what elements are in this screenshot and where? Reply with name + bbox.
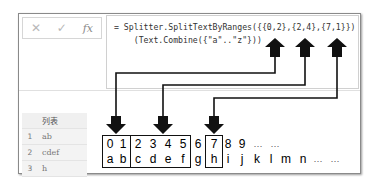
letter-cell: a: [103, 152, 117, 167]
index-ellipsis: …: [268, 137, 282, 152]
letter-cell: l: [264, 152, 278, 167]
up-arrow-icon: [295, 38, 315, 57]
index-cell: 5: [176, 137, 190, 152]
letter-cell: n: [296, 152, 310, 167]
letter-cell: m: [279, 152, 293, 167]
letter-cell: c: [131, 152, 145, 167]
index-cell: 8: [221, 137, 235, 152]
index-cell: 9: [235, 137, 249, 152]
down-arrow-icon: [153, 116, 173, 134]
letter-cell: f: [176, 152, 190, 167]
index-cell: 4: [161, 137, 175, 152]
index-cell: 6: [191, 137, 205, 152]
letter-ellipsis: …: [311, 152, 325, 167]
letter-cell: k: [250, 152, 264, 167]
index-cell: 3: [146, 137, 160, 152]
letter-cell: e: [161, 152, 175, 167]
down-arrow-icon: [204, 116, 224, 134]
letter-cell: h: [207, 152, 221, 167]
down-arrow-icon: [106, 116, 126, 134]
index-cell: 1: [116, 137, 130, 152]
letter-cell: j: [235, 152, 249, 167]
letter-cell: d: [146, 152, 160, 167]
index-cell: 2: [131, 137, 145, 152]
letter-cell: b: [116, 152, 130, 167]
index-ellipsis: …: [251, 137, 265, 152]
index-cell: 0: [103, 137, 117, 152]
letter-ellipsis: …: [328, 152, 342, 167]
index-cell: 7: [207, 137, 221, 152]
letter-cell: g: [191, 152, 205, 167]
letter-cell: i: [221, 152, 235, 167]
up-arrow-icon: [327, 38, 347, 57]
up-arrow-icon: [265, 38, 285, 57]
